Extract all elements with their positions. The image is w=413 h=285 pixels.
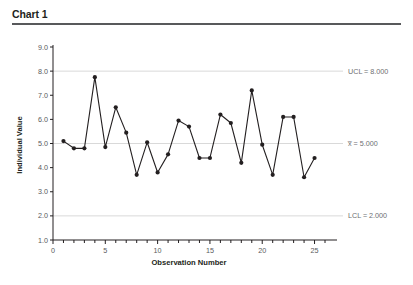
chart-axes bbox=[53, 45, 337, 240]
data-point bbox=[176, 118, 180, 122]
data-point bbox=[93, 75, 97, 79]
y-tick-label: 6.0 bbox=[38, 115, 48, 124]
data-point bbox=[260, 143, 264, 147]
y-tick-label: 4.0 bbox=[38, 163, 48, 172]
y-tick-label: 5.0 bbox=[38, 139, 48, 148]
data-point bbox=[82, 146, 86, 150]
x-tick-label: 10 bbox=[154, 246, 162, 255]
y-tick-label: 3.0 bbox=[38, 187, 48, 196]
x-tick-label: 5 bbox=[103, 246, 107, 255]
data-point bbox=[166, 152, 170, 156]
data-point bbox=[281, 115, 285, 119]
data-point bbox=[156, 170, 160, 174]
y-tick-label: 9.0 bbox=[38, 43, 48, 52]
x-tick-label: 0 bbox=[51, 246, 55, 255]
y-tick-label: 8.0 bbox=[38, 67, 48, 76]
data-point bbox=[135, 173, 139, 177]
x-tick-label: 15 bbox=[206, 246, 214, 255]
y-axis-label: Individual Value bbox=[15, 116, 24, 173]
y-tick-label: 7.0 bbox=[38, 91, 48, 100]
chart-page: Chart 1 1.02.03.04.05.06.07.08.09.0 0510… bbox=[0, 0, 413, 285]
data-point bbox=[114, 105, 118, 109]
data-point bbox=[61, 139, 65, 143]
data-point bbox=[208, 156, 212, 160]
data-point bbox=[271, 173, 275, 177]
limit-label-lcl: LCL = 2.000 bbox=[348, 211, 387, 220]
control-limit-labels: UCL = 8.000x̅ = 5.000LCL = 2.000 bbox=[347, 67, 389, 221]
x-axis-ticks: 0510152025 bbox=[51, 240, 325, 255]
x-axis-label: Observation Number bbox=[151, 258, 226, 267]
data-series bbox=[61, 75, 316, 179]
data-point bbox=[187, 125, 191, 129]
data-point bbox=[250, 88, 254, 92]
data-point bbox=[197, 156, 201, 160]
data-point bbox=[218, 112, 222, 116]
data-point bbox=[312, 156, 316, 160]
y-axis-ticks: 1.02.03.04.05.06.07.08.09.0 bbox=[38, 43, 53, 245]
control-limit-lines bbox=[53, 71, 343, 216]
chart-svg: 1.02.03.04.05.06.07.08.09.0 0510152025 U… bbox=[0, 0, 413, 285]
y-tick-label: 1.0 bbox=[38, 236, 48, 245]
data-point bbox=[72, 146, 76, 150]
data-point bbox=[239, 161, 243, 165]
data-point bbox=[124, 131, 128, 135]
x-tick-label: 20 bbox=[258, 246, 266, 255]
y-tick-label: 2.0 bbox=[38, 211, 48, 220]
data-point bbox=[145, 140, 149, 144]
control-chart: 1.02.03.04.05.06.07.08.09.0 0510152025 U… bbox=[0, 0, 413, 285]
x-tick-label: 25 bbox=[311, 246, 319, 255]
data-point bbox=[302, 175, 306, 179]
data-point bbox=[103, 145, 107, 149]
limit-label-center: x̅ = 5.000 bbox=[347, 139, 378, 148]
limit-label-ucl: UCL = 8.000 bbox=[348, 67, 388, 76]
data-point bbox=[292, 115, 296, 119]
data-point bbox=[229, 121, 233, 125]
